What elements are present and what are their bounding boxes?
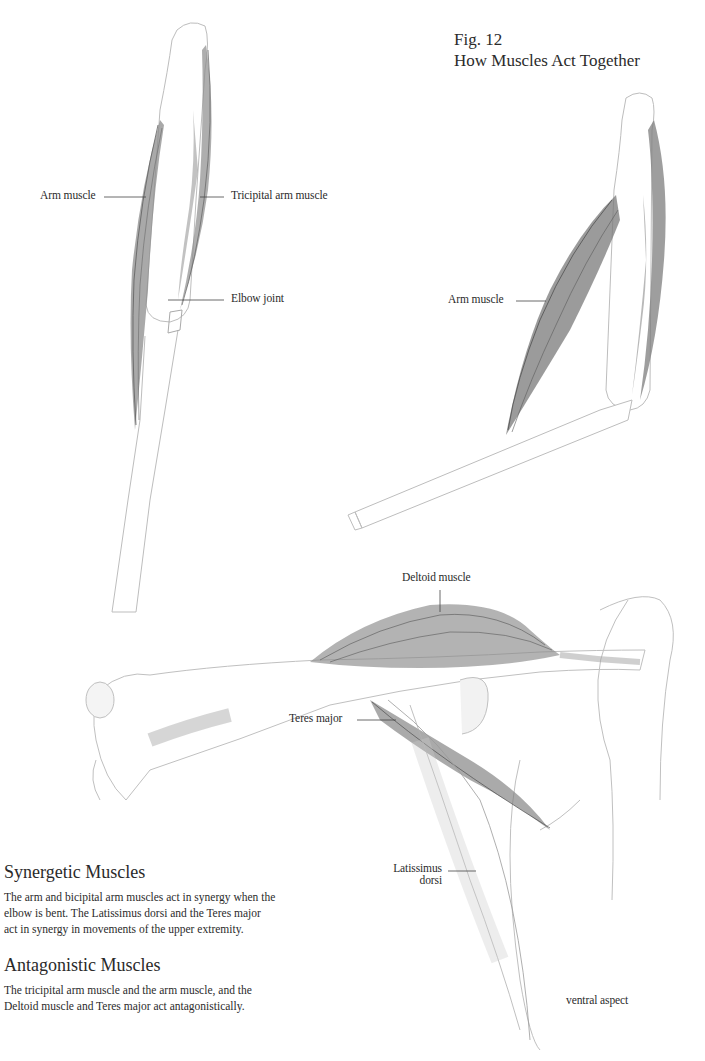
section-synergetic: Synergetic Muscles The arm and bicipital… (4, 862, 334, 937)
figure-number: Fig. 12 (454, 29, 640, 50)
label-deltoid-muscle: Deltoid muscle (402, 571, 471, 583)
label-teres-major: Teres major (289, 712, 342, 724)
straight-arm-drawing (112, 23, 208, 612)
label-arm-muscle: Arm muscle (40, 189, 96, 201)
body-line: The arm and bicipital arm muscles act in… (4, 889, 334, 905)
figure-title-block: Fig. 12 How Muscles Act Together (454, 29, 640, 71)
label-elbow-joint: Elbow joint (231, 292, 284, 304)
body-line: elbow is bent. The Latissimus dorsi and … (4, 905, 334, 921)
section-heading-antagonistic: Antagonistic Muscles (4, 955, 334, 976)
shoulder-deltoid (310, 604, 640, 668)
label-bent-arm-muscle: Arm muscle (448, 293, 504, 305)
section-body-synergetic: The arm and bicipital arm muscles act in… (4, 889, 334, 937)
body-line: The tricipital arm muscle and the arm mu… (4, 982, 334, 998)
bent-arm-drawing (348, 93, 654, 530)
section-antagonistic: Antagonistic Muscles The tricipital arm … (4, 955, 334, 1014)
label-tricipital-arm-muscle: Tricipital arm muscle (231, 189, 328, 201)
section-heading-synergetic: Synergetic Muscles (4, 862, 334, 883)
figure-title: How Muscles Act Together (454, 50, 640, 71)
body-line: Deltoid muscle and Teres major act antag… (4, 998, 334, 1014)
label-latissimus-dorsi: Latissimus dorsi (380, 862, 442, 886)
body-line: act in synergy in movements of the upper… (4, 921, 334, 937)
caption-ventral-aspect: ventral aspect (566, 994, 628, 1006)
bent-arm-biceps (506, 195, 620, 435)
label-latissimus-line1: Latissimus (380, 862, 442, 874)
label-latissimus-line2: dorsi (380, 874, 442, 886)
section-body-antagonistic: The tricipital arm muscle and the arm mu… (4, 982, 334, 1014)
